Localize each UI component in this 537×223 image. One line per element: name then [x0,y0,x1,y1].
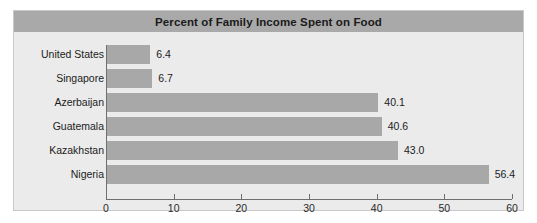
tick-mark [174,194,175,199]
category-label: Singapore [0,69,104,88]
bar-value-label: 40.1 [384,93,404,112]
bar-value-label: 56.4 [495,165,515,184]
x-tick-label: 20 [235,202,247,214]
plot-area: United StatesSingaporeAzerbaijanGuatemal… [14,32,523,210]
tick-mark [309,194,310,199]
x-tick-label: 40 [371,202,383,214]
bar [107,117,382,136]
category-label: Nigeria [0,165,104,184]
category-label: Guatemala [0,117,104,136]
tick-mark [512,194,513,199]
x-tick-label: 0 [103,202,109,214]
category-label: Azerbaijan [0,93,104,112]
bar-value-label: 6.4 [156,45,171,64]
bar [107,45,150,64]
bar [107,165,489,184]
x-tick-label: 30 [303,202,315,214]
x-tick-label: 10 [168,202,180,214]
chart-title-band: Percent of Family Income Spent on Food [14,11,523,32]
category-label: Kazakhstan [0,141,104,160]
tick-mark [241,194,242,199]
bar [107,141,398,160]
x-axis-line [106,199,512,200]
bar-value-label: 6.7 [158,69,173,88]
tick-mark [377,194,378,199]
chart-panel: Percent of Family Income Spent on Food U… [13,10,524,211]
bar-value-label: 43.0 [404,141,424,160]
x-tick-label: 60 [506,202,518,214]
category-label: United States [0,45,104,64]
bar [107,69,152,88]
bar-value-label: 40.6 [388,117,408,136]
page-title: Percent of Family Income Spent on Food [155,16,382,28]
tick-mark [444,194,445,199]
bar [107,93,378,112]
x-tick-label: 50 [438,202,450,214]
